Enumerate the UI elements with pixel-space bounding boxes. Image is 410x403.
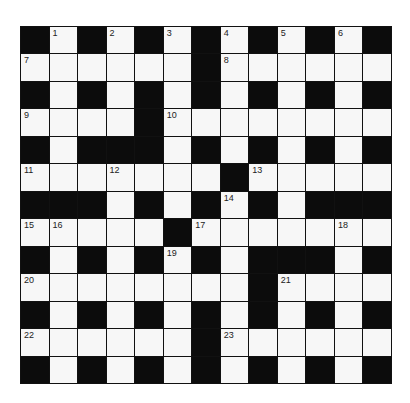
answer-cell[interactable] (192, 109, 220, 135)
answer-cell[interactable] (78, 164, 106, 190)
answer-cell[interactable] (50, 82, 78, 108)
answer-cell[interactable] (306, 274, 334, 300)
answer-cell[interactable] (164, 302, 192, 328)
answer-cell[interactable]: 9 (21, 109, 49, 135)
answer-cell[interactable] (164, 357, 192, 383)
answer-cell[interactable] (278, 302, 306, 328)
answer-cell[interactable]: 18 (335, 219, 363, 245)
answer-cell[interactable] (107, 302, 135, 328)
answer-cell[interactable] (164, 192, 192, 218)
answer-cell[interactable] (135, 329, 163, 355)
answer-cell[interactable] (249, 219, 277, 245)
answer-cell[interactable] (221, 137, 249, 163)
answer-cell[interactable] (249, 329, 277, 355)
answer-cell[interactable] (135, 54, 163, 80)
answer-cell[interactable] (306, 329, 334, 355)
answer-cell[interactable]: 21 (278, 274, 306, 300)
answer-cell[interactable] (78, 109, 106, 135)
answer-cell[interactable]: 2 (107, 27, 135, 53)
answer-cell[interactable] (107, 247, 135, 273)
answer-cell[interactable] (78, 219, 106, 245)
answer-cell[interactable] (335, 82, 363, 108)
answer-cell[interactable] (135, 274, 163, 300)
answer-cell[interactable] (335, 54, 363, 80)
answer-cell[interactable] (335, 302, 363, 328)
answer-cell[interactable]: 19 (164, 247, 192, 273)
answer-cell[interactable] (50, 329, 78, 355)
answer-cell[interactable] (221, 109, 249, 135)
answer-cell[interactable] (164, 164, 192, 190)
answer-cell[interactable] (363, 109, 391, 135)
answer-cell[interactable] (221, 302, 249, 328)
answer-cell[interactable] (278, 109, 306, 135)
answer-cell[interactable] (335, 329, 363, 355)
answer-cell[interactable] (249, 109, 277, 135)
answer-cell[interactable] (306, 164, 334, 190)
answer-cell[interactable] (164, 329, 192, 355)
answer-cell[interactable] (278, 192, 306, 218)
answer-cell[interactable]: 17 (192, 219, 220, 245)
answer-cell[interactable]: 1 (50, 27, 78, 53)
answer-cell[interactable] (164, 54, 192, 80)
answer-cell[interactable] (278, 357, 306, 383)
answer-cell[interactable] (306, 54, 334, 80)
answer-cell[interactable] (335, 274, 363, 300)
answer-cell[interactable] (50, 54, 78, 80)
answer-cell[interactable] (335, 137, 363, 163)
answer-cell[interactable]: 16 (50, 219, 78, 245)
answer-cell[interactable] (306, 109, 334, 135)
answer-cell[interactable]: 14 (221, 192, 249, 218)
answer-cell[interactable] (278, 54, 306, 80)
answer-cell[interactable] (335, 109, 363, 135)
answer-cell[interactable] (221, 219, 249, 245)
answer-cell[interactable] (50, 357, 78, 383)
answer-cell[interactable] (192, 274, 220, 300)
answer-cell[interactable] (306, 219, 334, 245)
answer-cell[interactable]: 22 (21, 329, 49, 355)
answer-cell[interactable] (107, 192, 135, 218)
answer-cell[interactable]: 8 (221, 54, 249, 80)
answer-cell[interactable] (164, 274, 192, 300)
answer-cell[interactable] (335, 164, 363, 190)
answer-cell[interactable] (164, 137, 192, 163)
answer-cell[interactable]: 3 (164, 27, 192, 53)
answer-cell[interactable]: 6 (335, 27, 363, 53)
answer-cell[interactable] (335, 357, 363, 383)
answer-cell[interactable]: 11 (21, 164, 49, 190)
answer-cell[interactable]: 20 (21, 274, 49, 300)
answer-cell[interactable] (221, 274, 249, 300)
answer-cell[interactable] (78, 54, 106, 80)
answer-cell[interactable] (50, 302, 78, 328)
answer-cell[interactable]: 10 (164, 109, 192, 135)
answer-cell[interactable] (135, 164, 163, 190)
answer-cell[interactable] (78, 274, 106, 300)
answer-cell[interactable] (107, 219, 135, 245)
answer-cell[interactable] (50, 137, 78, 163)
answer-cell[interactable] (107, 274, 135, 300)
answer-cell[interactable] (50, 247, 78, 273)
answer-cell[interactable] (50, 164, 78, 190)
answer-cell[interactable]: 4 (221, 27, 249, 53)
answer-cell[interactable]: 15 (21, 219, 49, 245)
answer-cell[interactable] (278, 219, 306, 245)
answer-cell[interactable] (107, 54, 135, 80)
answer-cell[interactable]: 13 (249, 164, 277, 190)
answer-cell[interactable] (278, 82, 306, 108)
answer-cell[interactable] (107, 82, 135, 108)
answer-cell[interactable] (363, 164, 391, 190)
answer-cell[interactable] (107, 357, 135, 383)
answer-cell[interactable] (363, 54, 391, 80)
answer-cell[interactable] (335, 247, 363, 273)
answer-cell[interactable] (135, 219, 163, 245)
answer-cell[interactable] (221, 247, 249, 273)
answer-cell[interactable] (249, 54, 277, 80)
answer-cell[interactable]: 23 (221, 329, 249, 355)
answer-cell[interactable] (278, 329, 306, 355)
answer-cell[interactable] (278, 164, 306, 190)
answer-cell[interactable]: 12 (107, 164, 135, 190)
answer-cell[interactable] (192, 164, 220, 190)
answer-cell[interactable] (107, 329, 135, 355)
answer-cell[interactable] (221, 357, 249, 383)
answer-cell[interactable] (164, 82, 192, 108)
answer-cell[interactable] (363, 274, 391, 300)
